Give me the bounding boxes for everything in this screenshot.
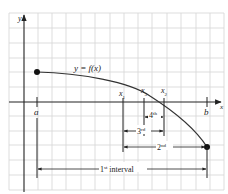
function-curve: [37, 72, 207, 147]
svg-text:2nd: 2nd: [157, 143, 167, 152]
label-x1: x1: [118, 89, 126, 100]
label-b: b: [204, 107, 209, 117]
svg-text:1st interval: 1st interval: [100, 165, 135, 174]
label-x3: x3: [140, 86, 148, 97]
bisection-diagram: y x y = f(x) a b x1 x3 x2 4th 3rd 2nd 1s…: [0, 0, 228, 194]
label-a: a: [34, 107, 39, 117]
start-point: [34, 69, 40, 75]
function-label: y = f(x): [73, 63, 101, 73]
label-x2: x2: [160, 86, 168, 97]
y-axis-label: y: [17, 14, 22, 23]
x-axis-label: x: [219, 103, 224, 111]
interval-2: 2nd: [124, 141, 205, 152]
interval-4: 4th: [145, 110, 163, 120]
